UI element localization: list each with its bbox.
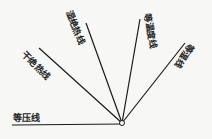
origin-point-icon [120,121,125,126]
isotherm-line [122,19,140,123]
moist-adiabat-line [86,23,122,123]
dry-adiabat-line [39,48,122,123]
isobar-line [12,124,122,125]
isobar-label: 等压线 [13,111,40,124]
iso-humidity-line [122,43,185,123]
diagram-canvas: 等压线 干绝热线 湿绝热线 等温度线 等湿线 [0,0,212,139]
